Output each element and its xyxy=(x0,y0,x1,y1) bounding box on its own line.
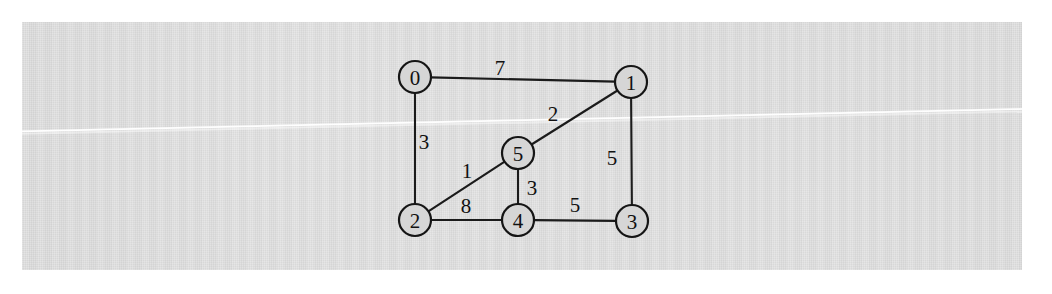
graph-edge-weight-label: 1 xyxy=(462,159,473,183)
graph-node: 5 xyxy=(502,137,534,169)
graph-edge xyxy=(531,90,618,145)
graph-node-label: 0 xyxy=(410,66,421,90)
graph-node-label: 5 xyxy=(513,142,524,166)
graph-node: 2 xyxy=(399,204,431,236)
graph-node-label: 1 xyxy=(626,71,637,95)
graph-node-label: 2 xyxy=(410,209,421,233)
graph-edge-weight-label: 3 xyxy=(527,176,538,200)
graph-node: 3 xyxy=(616,205,648,237)
graph-node: 4 xyxy=(502,204,534,236)
graph-edge xyxy=(533,220,616,221)
graph-edge-weight-label: 3 xyxy=(419,130,430,154)
graph-node-label: 3 xyxy=(627,210,638,234)
graph-figure: 73251835 012345 xyxy=(0,0,1052,294)
graph-edge xyxy=(430,77,615,81)
graph-edge-weight-label: 2 xyxy=(548,102,559,126)
graph-edge-weight-label: 8 xyxy=(461,194,472,218)
graph-node: 1 xyxy=(615,66,647,98)
graph-node-label: 4 xyxy=(513,209,524,233)
graph-node: 0 xyxy=(399,61,431,93)
graph-edge-weight-label: 5 xyxy=(607,146,618,170)
scanned-page: 73251835 012345 xyxy=(0,0,1052,294)
graph-edge-weight-label: 5 xyxy=(570,193,581,217)
graph-canvas: 73251835 012345 xyxy=(0,0,1052,294)
graph-edge xyxy=(631,97,632,205)
graph-edge-weight-label: 7 xyxy=(495,56,506,80)
